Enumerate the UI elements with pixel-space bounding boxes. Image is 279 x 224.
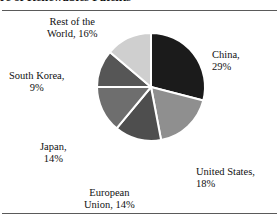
slice-label-china-line1: China, — [212, 49, 240, 60]
slice-label-european-union-line2: Union, 14% — [84, 199, 135, 211]
slice-label-united-states-line2: 18% — [196, 178, 255, 190]
divider-bottom — [2, 213, 277, 214]
pie-chart — [96, 32, 206, 142]
slice-label-south-korea-line2: 9% — [9, 82, 64, 94]
slice-label-china-line2: 29% — [212, 61, 240, 73]
slice-label-japan-line2: 14% — [40, 153, 67, 165]
chart-title-band: re of Renewables Patents — [0, 0, 279, 6]
slice-label-japan-line1: Japan, — [40, 141, 67, 152]
slice-label-rest-of-world-line2: World, 16% — [47, 28, 97, 40]
page-title: re of Renewables Patents — [0, 0, 131, 4]
slice-label-european-union: European Union, 14% — [84, 187, 135, 212]
slice-label-japan: Japan, 14% — [40, 141, 67, 166]
slice-label-european-union-line1: European — [89, 187, 129, 198]
slice-label-united-states: United States, 18% — [196, 166, 255, 191]
slice-label-rest-of-world: Rest of the World, 16% — [47, 16, 97, 41]
slice-label-united-states-line1: United States, — [196, 166, 255, 177]
slice-label-rest-of-world-line1: Rest of the — [49, 16, 95, 27]
slice-label-south-korea: South Korea, 9% — [9, 70, 64, 95]
slice-label-china: China, 29% — [212, 49, 240, 74]
pie-chart-figure: re of Renewables Patents Rest of the Wor… — [0, 0, 279, 224]
pie-svg — [96, 32, 206, 142]
divider-top — [2, 10, 277, 11]
slice-label-south-korea-line1: South Korea, — [9, 70, 64, 81]
